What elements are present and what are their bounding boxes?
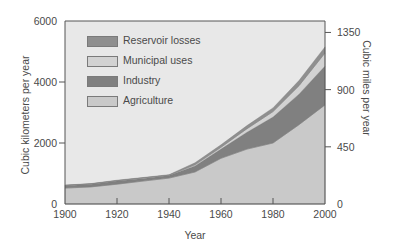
y-tick-label: 2000 [34, 137, 58, 149]
y-tick-label: 0 [51, 198, 57, 210]
y-tick-label: 4000 [34, 76, 58, 88]
legend-label: Municipal uses [123, 54, 192, 66]
y-right-tick-label: 450 [337, 141, 355, 153]
legend-swatch-agriculture [87, 96, 118, 107]
legend-swatch-municipal-uses [87, 56, 118, 67]
legend-swatch-reservoir-losses [87, 36, 118, 47]
y-axis-left-label: Cubic kilometers per year [19, 55, 31, 174]
x-tick-label: 1940 [157, 208, 181, 220]
x-tick-label: 1980 [261, 208, 285, 220]
legend-label: Agriculture [123, 94, 173, 106]
y-right-tick-label: 0 [337, 198, 343, 210]
legend-label: Industry [123, 74, 160, 86]
y-axis-right-label: Cubic miles per year [361, 40, 373, 136]
y-right-tick-label: 1350 [337, 26, 361, 38]
x-tick-label: 2000 [313, 208, 337, 220]
x-tick-label: 1960 [209, 208, 233, 220]
y-right-tick-label: 900 [337, 84, 355, 96]
x-tick-label: 1920 [105, 208, 129, 220]
legend-swatch-industry [87, 76, 118, 87]
chart: 1900192019401960198020000200040006000045… [0, 0, 395, 251]
y-tick-label: 6000 [34, 15, 58, 27]
x-axis-label: Year [184, 229, 205, 241]
legend-label: Reservoir losses [123, 34, 201, 46]
